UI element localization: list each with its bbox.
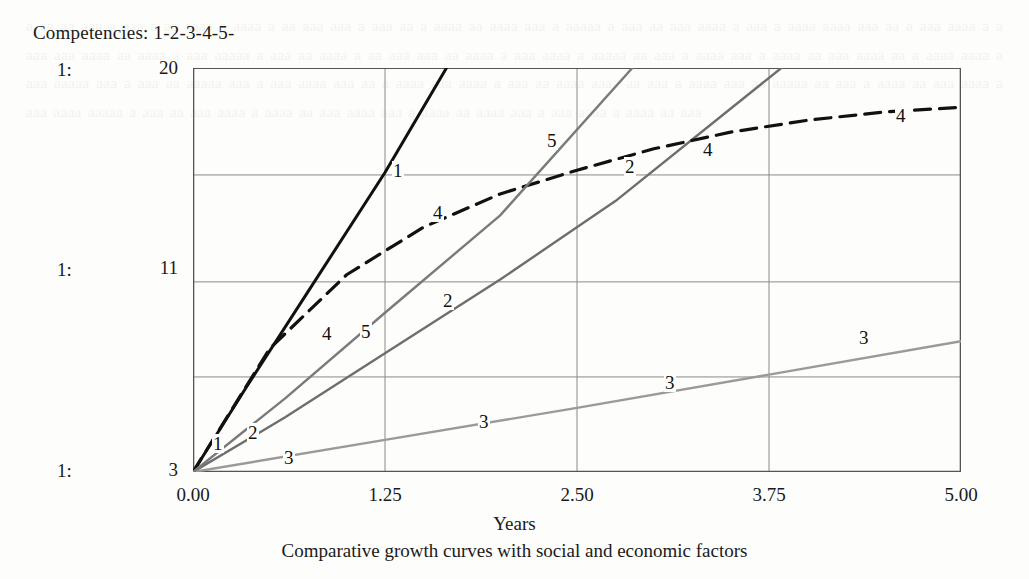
curve-5 [193, 68, 632, 472]
x-tick-250: 2.50 [532, 484, 622, 506]
curve-label-3: 3 [283, 448, 295, 467]
curve-label-3: 3 [858, 328, 870, 347]
curve-label-5: 5 [546, 131, 558, 150]
x-axis-title: Years [0, 513, 1029, 535]
curve-label-4: 4 [432, 203, 444, 222]
x-tick-0: 0.00 [148, 484, 238, 506]
curve-label-4: 4 [895, 106, 907, 125]
x-tick-500: 5.00 [916, 484, 1006, 506]
curve-label-2: 2 [624, 157, 636, 176]
curve-label-4: 4 [702, 140, 714, 159]
curve-label-2: 2 [247, 423, 259, 442]
curve-label-1: 1 [212, 434, 224, 453]
curve-label-2: 2 [442, 291, 454, 310]
figure-root: a ca aa aaa a aaa a aa aaaa a aaaa a aa … [0, 0, 1029, 579]
y-tick-3: 3 [132, 459, 178, 481]
x-tick-375: 3.75 [724, 484, 814, 506]
curve-label-1: 1 [392, 161, 404, 180]
y-tick-20: 20 [132, 57, 178, 79]
chart-svg [193, 68, 961, 472]
curve-1 [193, 68, 446, 472]
curve-label-3: 3 [478, 412, 490, 431]
legend-caption: Competencies: 1-2-3-4-5- [33, 22, 235, 44]
curve-label-4: 4 [321, 324, 333, 343]
row-marker-bottom: 1: [57, 460, 72, 482]
x-tick-125: 1.25 [340, 484, 430, 506]
curve-label-5: 5 [360, 322, 372, 341]
figure-caption: Comparative growth curves with social an… [0, 540, 1029, 562]
chart-plot-area [193, 68, 961, 472]
y-tick-11: 11 [132, 257, 178, 279]
row-marker-middle: 1: [57, 259, 72, 281]
curve-label-3: 3 [664, 373, 676, 392]
row-marker-top: 1: [57, 59, 72, 81]
